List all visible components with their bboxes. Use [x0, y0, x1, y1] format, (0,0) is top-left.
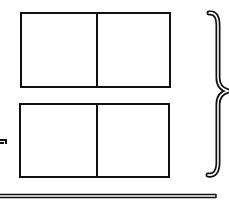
edge-mark-icon: [0, 140, 7, 144]
right-brace-icon: [208, 13, 228, 175]
diagram-overlay: [0, 0, 229, 202]
diagram: [0, 0, 229, 202]
double-rule: [0, 194, 216, 198]
